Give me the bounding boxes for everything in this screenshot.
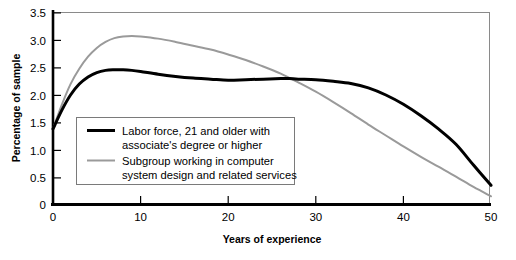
x-tick-label-20: 20 (222, 211, 235, 223)
chart-page: 3.5 3.0 2.5 2.0 1.5 1.0 0.5 0 0 10 20 30… (0, 0, 516, 260)
legend: Labor force, 21 and older with associate… (77, 118, 298, 185)
y-tick-label-1-5: 1.5 (30, 117, 46, 129)
y-tick-label-2-5: 2.5 (30, 62, 46, 74)
x-tick-label-40: 40 (397, 211, 410, 223)
line-chart: 3.5 3.0 2.5 2.0 1.5 1.0 0.5 0 0 10 20 30… (0, 0, 516, 260)
y-tick-label-2-0: 2.0 (30, 90, 46, 102)
x-tick-label-0: 0 (50, 211, 56, 223)
y-tick-label-0-5: 0.5 (30, 172, 46, 184)
y-tick-label-3-0: 3.0 (30, 35, 46, 47)
legend-label-labor-force-line2: associate's degree or higher (122, 139, 262, 151)
x-tick-label-30: 30 (309, 211, 322, 223)
x-axis-title: Years of experience (223, 233, 322, 245)
y-axis-title: Percentage of sample (10, 54, 22, 163)
y-tick-label-3-5: 3.5 (30, 7, 46, 19)
legend-label-subgroup-line2: system design and related services (122, 169, 297, 181)
legend-label-labor-force-line1: Labor force, 21 and older with (122, 125, 270, 137)
legend-label-subgroup-line1: Subgroup working in computer (122, 155, 274, 167)
y-tick-label-1-0: 1.0 (30, 145, 46, 157)
x-tick-label-10: 10 (134, 211, 147, 223)
y-tick-label-0: 0 (40, 199, 46, 211)
x-tick-label-50: 50 (485, 211, 498, 223)
